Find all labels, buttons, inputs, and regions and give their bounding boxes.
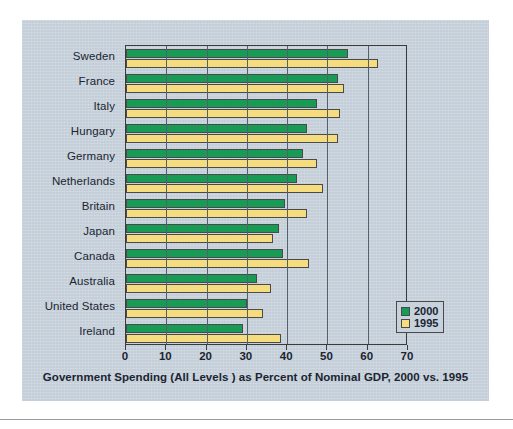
bar-row: [126, 71, 406, 96]
bar-2000-australia: [126, 274, 257, 283]
bar-1995-united-states: [126, 309, 263, 318]
x-tick-label-50: 50: [320, 350, 333, 362]
bar-1995-germany: [126, 159, 317, 168]
category-label-germany: Germany: [67, 150, 115, 162]
bar-2000-france: [126, 74, 338, 83]
x-tick-label-20: 20: [199, 350, 212, 362]
legend-label-2000: 2000: [414, 305, 438, 317]
x-tick-mark-30: [246, 345, 247, 350]
bar-row: [126, 121, 406, 146]
bar-2000-italy: [126, 99, 317, 108]
bar-row: [126, 46, 406, 71]
gridline-10: [166, 46, 167, 344]
legend-entry-2000: 2000: [401, 305, 438, 317]
x-tick-label-30: 30: [239, 350, 252, 362]
bar-row: [126, 321, 406, 346]
gridline-50: [327, 46, 328, 344]
legend-swatch-1995-icon: [401, 319, 410, 328]
bar-row: [126, 146, 406, 171]
bar-2000-united-states: [126, 299, 247, 308]
x-tick-label-0: 0: [122, 350, 128, 362]
x-tick-label-60: 60: [360, 350, 373, 362]
x-tick-mark-20: [206, 345, 207, 350]
bar-row: [126, 246, 406, 271]
category-label-netherlands: Netherlands: [52, 175, 115, 187]
bar-2000-japan: [126, 224, 279, 233]
bar-1995-france: [126, 84, 344, 93]
category-label-united-states: United States: [45, 300, 115, 312]
figure-container: SwedenFranceItalyHungaryGermanyNetherlan…: [0, 0, 513, 429]
gridline-20: [207, 46, 208, 344]
bar-1995-ireland: [126, 334, 281, 343]
x-axis-tick-labels: 010203040506070: [125, 350, 407, 368]
x-tick-label-10: 10: [159, 350, 172, 362]
x-tick-mark-60: [367, 345, 368, 350]
bar-row: [126, 96, 406, 121]
bar-row: [126, 221, 406, 246]
category-label-hungary: Hungary: [71, 125, 115, 137]
category-label-ireland: Ireland: [79, 325, 115, 337]
bar-row: [126, 271, 406, 296]
chart-legend: 2000 1995: [396, 301, 444, 333]
gridline-40: [287, 46, 288, 344]
bar-2000-hungary: [126, 124, 307, 133]
bar-1995-australia: [126, 284, 271, 293]
bar-1995-canada: [126, 259, 309, 268]
bar-1995-sweden: [126, 59, 378, 68]
bar-2000-germany: [126, 149, 303, 158]
category-label-britain: Britain: [82, 200, 115, 212]
bar-2000-britain: [126, 199, 285, 208]
bar-1995-netherlands: [126, 184, 323, 193]
bar-row: [126, 171, 406, 196]
bar-2000-sweden: [126, 49, 348, 58]
x-axis-title: Government Spending (All Levels ) as Per…: [22, 371, 489, 383]
category-label-canada: Canada: [74, 250, 115, 262]
footer-divider: [0, 419, 513, 420]
category-label-italy: Italy: [93, 100, 115, 112]
bar-2000-netherlands: [126, 174, 297, 183]
legend-entry-1995: 1995: [401, 317, 438, 329]
category-label-france: France: [79, 75, 115, 87]
category-axis-labels: SwedenFranceItalyHungaryGermanyNetherlan…: [22, 45, 121, 345]
category-label-japan: Japan: [83, 225, 115, 237]
legend-swatch-2000-icon: [401, 307, 410, 316]
bar-1995-italy: [126, 109, 340, 118]
x-tick-mark-40: [286, 345, 287, 350]
category-label-australia: Australia: [69, 275, 115, 287]
bar-1995-hungary: [126, 134, 338, 143]
bar-2000-ireland: [126, 324, 243, 333]
legend-label-1995: 1995: [414, 317, 438, 329]
x-tick-label-70: 70: [401, 350, 414, 362]
bar-1995-japan: [126, 234, 273, 243]
plot-area: [125, 45, 407, 345]
gridline-60: [368, 46, 369, 344]
bar-row: [126, 196, 406, 221]
gridline-30: [247, 46, 248, 344]
x-tick-mark-50: [326, 345, 327, 350]
x-tick-label-40: 40: [280, 350, 293, 362]
bar-rows: [126, 46, 406, 344]
bar-row: [126, 296, 406, 321]
x-tick-mark-10: [165, 345, 166, 350]
bar-1995-britain: [126, 209, 307, 218]
category-label-sweden: Sweden: [73, 50, 115, 62]
x-tick-mark-0: [125, 345, 126, 350]
bar-2000-canada: [126, 249, 283, 258]
x-tick-mark-70: [407, 345, 408, 350]
